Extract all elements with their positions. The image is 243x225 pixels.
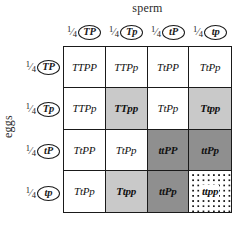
genotype-label: TtPp [158,102,179,114]
fraction-one-quarter: 1⁄4 [193,25,203,38]
genotype-label: TtPP [73,144,95,156]
genotype-label: Ttpp [200,102,220,114]
fraction-one-quarter: 1⁄4 [26,186,36,199]
punnett-cell: Ttpp [189,88,231,129]
gamete-token: 1⁄4 Tp [109,25,143,40]
gamete-token: 1⁄4 TP [26,60,60,75]
punnett-cell: TtPp [106,130,148,171]
fraction-one-quarter: 1⁄4 [26,60,36,73]
genotype-label: TtPp [200,61,221,73]
genotype-label: TTPp [114,61,138,73]
allele-bubble-egg-3: tP [37,144,60,159]
punnett-cell: TTpp [106,88,148,129]
punnett-square-grid: TTPPTTPpTtPPTtPpTTPpTTppTtPpTtppTtPPTtPp… [63,46,232,213]
punnett-cell: TTPp [64,88,106,129]
punnett-cell: ttPp [148,171,190,212]
punnett-cell: TTPp [106,47,148,88]
allele-bubble-egg-1: TP [37,60,60,75]
genotype-label: TTpp [114,102,138,114]
allele-bubble-sperm-4: tp [204,25,227,40]
genotype-label: TtPP [157,61,179,73]
gamete-token: 1⁄4 TP [67,25,101,40]
row-header-gamete-3: 1⁄4 tP [18,130,62,172]
row-header-gamete-2: 1⁄4 Tp [18,88,62,130]
punnett-cell: ttPp [189,130,231,171]
punnett-cell: TTPP [64,47,106,88]
gamete-token: 1⁄4 tp [26,186,60,201]
allele-bubble-sperm-3: tP [162,25,185,40]
punnett-cell: ttpp [189,171,231,212]
punnett-cell: TtPp [64,171,106,212]
punnett-cell: TtPp [189,47,231,88]
row-header-gamete-1: 1⁄4 TP [18,46,62,88]
genotype-label: TTPP [72,61,97,73]
column-header-gamete-1: 1⁄4 TP [63,23,105,41]
fraction-one-quarter: 1⁄4 [67,25,77,38]
genotype-label: ttPp [159,185,177,197]
punnett-cell: TtPp [148,88,190,129]
punnett-cell: TtPP [148,47,190,88]
gamete-token: 1⁄4 tP [151,25,185,40]
gamete-token: 1⁄4 Tp [26,102,60,117]
sperm-axis-label: sperm [63,1,232,16]
column-header-gamete-2: 1⁄4 Tp [105,23,147,41]
allele-bubble-egg-2: Tp [37,102,60,117]
column-header-gamete-4: 1⁄4 tp [189,23,231,41]
fraction-one-quarter: 1⁄4 [26,144,36,157]
punnett-cell: TtPP [64,130,106,171]
genotype-label: ttpp [201,185,219,197]
column-header-gamete-3: 1⁄4 tP [147,23,189,41]
allele-bubble-egg-4: tp [37,186,60,201]
row-header-gamete-4: 1⁄4 tp [18,172,62,214]
allele-bubble-sperm-2: Tp [120,25,143,40]
punnett-cell: ttPP [148,130,190,171]
gamete-token: 1⁄4 tp [193,25,227,40]
genotype-label: Ttpp [116,185,136,197]
genotype-label: TtPp [74,185,95,197]
allele-bubble-sperm-1: TP [78,25,101,40]
fraction-one-quarter: 1⁄4 [109,25,119,38]
genotype-label: TtPp [116,144,137,156]
punnett-cell: Ttpp [106,171,148,212]
fraction-one-quarter: 1⁄4 [26,102,36,115]
fraction-one-quarter: 1⁄4 [151,25,161,38]
gamete-token: 1⁄4 tP [26,144,60,159]
genotype-label: ttPp [201,144,219,156]
eggs-axis-label: eggs [1,108,16,146]
genotype-label: ttPP [158,144,177,156]
genotype-label: TTPp [73,102,97,114]
